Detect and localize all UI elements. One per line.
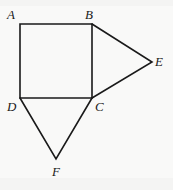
vertex-label-c: C [95,100,104,113]
shape-triangle-bce [92,24,152,98]
vertex-label-b: B [85,8,93,21]
vertex-label-e: E [155,55,163,68]
vertex-label-d: D [7,100,16,113]
vertex-label-f: F [52,165,60,178]
vertex-label-a: A [7,8,15,21]
geometry-figure: A B C D E F [0,0,173,190]
shape-triangle-dcf [20,98,92,159]
shape-square-abcd [20,24,92,98]
figure-canvas [0,0,173,190]
